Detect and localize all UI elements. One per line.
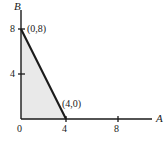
feasible-region-chart: B A 8 4 0 4 8 (0,8) (4,0): [0, 0, 167, 142]
y-axis-label: B: [14, 1, 21, 12]
x-axis-label: A: [156, 113, 163, 124]
y-tick-label-8: 8: [10, 24, 15, 34]
y-tick-label-4: 4: [10, 69, 15, 79]
point-annotation-a-intercept: (4,0): [62, 99, 81, 109]
x-tick-label-4: 4: [62, 124, 67, 134]
x-tick-label-0: 0: [17, 124, 22, 134]
x-tick-label-8: 8: [114, 124, 119, 134]
plot-canvas: [0, 0, 167, 142]
point-annotation-b-intercept: (0,8): [27, 24, 46, 34]
